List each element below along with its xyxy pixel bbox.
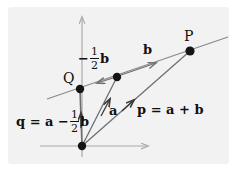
vector-label-b: b [143,43,152,56]
fraction-one-half: 12 [70,109,79,134]
dot-origin [78,142,86,150]
plus-sign: + [179,102,190,117]
q-symbol: q [16,114,25,129]
dot-q [76,85,84,93]
minus-sign: − [78,51,89,66]
vector-p-arrow [122,100,134,111]
dot-p [185,46,194,55]
dot-a-tip [113,73,121,81]
vector-label-minus-half-b: −12b [78,47,109,72]
line-q-to-p-extended [47,37,228,99]
fraction-numerator: 1 [70,109,79,122]
p-symbol: p [137,102,146,117]
vector-b-group [121,63,156,75]
fraction-numerator: 1 [90,46,99,59]
point-label-q: Q [63,71,74,85]
b-symbol: b [194,102,203,117]
vector-b-arrow [121,63,156,75]
equation-q-equals-a-minus-half-b: q = a −12b [16,110,89,135]
b-symbol: b [80,114,89,129]
equals-sign: = [151,102,162,117]
equation-p-equals-a-plus-b: p = a + b [137,103,204,116]
a-symbol: a [45,114,53,129]
vector-label-a: a [109,104,117,117]
point-label-p: P [184,29,193,43]
fraction-denominator: 2 [90,59,99,71]
a-symbol: a [166,102,174,117]
equals-sign: = [30,114,41,129]
fraction-denominator: 2 [70,122,79,134]
vector-canvas [0,0,236,172]
vector-b-symbol: b [100,51,109,66]
minus-sign: − [58,114,69,129]
fraction-one-half: 12 [90,46,99,71]
line-through-points [47,37,228,99]
vector-diagram-figure: Q P b a −12b p = a + b q = a −12b [0,0,236,172]
